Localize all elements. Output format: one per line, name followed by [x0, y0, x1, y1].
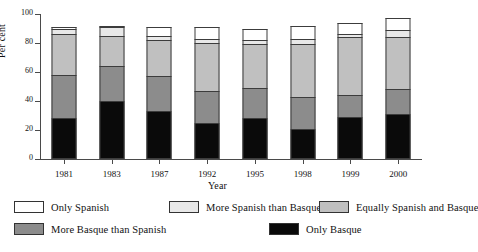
- y-axis-tick-label: 40: [25, 95, 33, 105]
- bar-segment[interactable]: [242, 88, 267, 118]
- y-axis-tick-label: 80: [25, 37, 33, 47]
- bar-segment[interactable]: [242, 44, 267, 88]
- bar-segment[interactable]: [51, 118, 76, 159]
- bar-segment[interactable]: [99, 36, 124, 66]
- stacked-bar[interactable]: [147, 27, 172, 159]
- bar-segment[interactable]: [386, 114, 411, 159]
- chart-legend: Only SpanishMore Spanish than BasqueEqua…: [14, 196, 428, 240]
- y-axis-tick-label: 60: [25, 66, 33, 76]
- stacked-bar[interactable]: [51, 27, 76, 159]
- bar-segment[interactable]: [195, 43, 220, 91]
- x-axis-tick-label: 2000: [389, 169, 407, 179]
- bar-segment[interactable]: [386, 37, 411, 89]
- legend-label: Equally Spanish and Basque: [356, 202, 478, 213]
- x-axis-tick-mark: [112, 160, 113, 164]
- bar-segment[interactable]: [242, 118, 267, 159]
- y-axis-tick: 0: [40, 159, 41, 160]
- x-axis-tick-label: 1983: [103, 169, 121, 179]
- bar-segment[interactable]: [147, 27, 172, 36]
- legend-item[interactable]: Only Basque: [269, 218, 362, 240]
- x-axis-tick-mark: [159, 160, 160, 164]
- bar-segment[interactable]: [147, 76, 172, 111]
- x-axis-title: Year: [0, 180, 435, 191]
- x-axis-tick-mark: [64, 160, 65, 164]
- legend-label: More Basque than Spanish: [51, 224, 166, 235]
- bar-segment[interactable]: [195, 123, 220, 159]
- stacked-bar[interactable]: [195, 27, 220, 159]
- bar-segment[interactable]: [290, 97, 315, 129]
- bar-slot: 1981: [40, 14, 88, 159]
- bar-segment[interactable]: [195, 91, 220, 123]
- bar-slot: 2000: [374, 14, 422, 159]
- x-axis-tick-mark: [255, 160, 256, 164]
- legend-swatch: [14, 201, 44, 213]
- bar-segment[interactable]: [51, 34, 76, 75]
- bar-slot: 1983: [88, 14, 136, 159]
- stacked-bar[interactable]: [290, 26, 315, 159]
- bar-segment[interactable]: [51, 75, 76, 119]
- bar-segment[interactable]: [99, 27, 124, 36]
- bar-slot: 1999: [327, 14, 375, 159]
- x-axis-tick-label: 1995: [246, 169, 264, 179]
- x-axis-line: [40, 159, 422, 160]
- stacked-bar[interactable]: [242, 29, 267, 159]
- bar-segment[interactable]: [338, 95, 363, 117]
- legend-item[interactable]: Equally Spanish and Basque: [319, 196, 478, 218]
- x-axis-tick-mark: [207, 160, 208, 164]
- stacked-bar[interactable]: [386, 18, 411, 159]
- legend-row: Only SpanishMore Spanish than BasqueEqua…: [14, 196, 428, 218]
- x-axis-tick-label: 1981: [55, 169, 73, 179]
- bar-slot: 1992: [183, 14, 231, 159]
- stacked-bar[interactable]: [99, 26, 124, 159]
- x-axis-tick-label: 1998: [294, 169, 312, 179]
- y-axis-title: Per cent: [0, 24, 7, 58]
- legend-label: More Spanish than Basque: [206, 202, 321, 213]
- legend-swatch: [169, 201, 199, 213]
- bar-segment[interactable]: [195, 27, 220, 39]
- x-axis-tick-mark: [398, 160, 399, 164]
- legend-label: Only Spanish: [51, 202, 109, 213]
- y-axis-tick-label: 0: [29, 153, 33, 163]
- bar-segment[interactable]: [338, 23, 363, 35]
- bar-segment[interactable]: [242, 29, 267, 41]
- y-axis-tick-label: 100: [21, 8, 33, 18]
- legend-item[interactable]: More Basque than Spanish: [14, 218, 166, 240]
- legend-row: More Basque than SpanishOnly Basque: [14, 218, 428, 240]
- bar-segment[interactable]: [386, 18, 411, 30]
- bar-segment[interactable]: [338, 117, 363, 159]
- x-axis-tick-label: 1987: [150, 169, 168, 179]
- bar-slot: 1998: [279, 14, 327, 159]
- legend-swatch: [14, 223, 44, 235]
- legend-swatch: [319, 201, 349, 213]
- x-axis-tick-label: 1992: [198, 169, 216, 179]
- bar-segment[interactable]: [386, 89, 411, 114]
- bar-segment[interactable]: [338, 37, 363, 95]
- x-axis-tick-label: 1999: [341, 169, 359, 179]
- bar-segment[interactable]: [147, 40, 172, 76]
- bar-segment[interactable]: [290, 26, 315, 39]
- bar-segment[interactable]: [99, 101, 124, 159]
- bar-segment[interactable]: [99, 66, 124, 101]
- bar-segment[interactable]: [290, 129, 315, 159]
- legend-item[interactable]: Only Spanish: [14, 196, 109, 218]
- x-axis-tick-mark: [350, 160, 351, 164]
- y-axis-tick-label: 20: [25, 124, 33, 134]
- x-axis-tick-mark: [303, 160, 304, 164]
- y-axis-tick-mark: [35, 159, 40, 160]
- bar-slot: 1987: [136, 14, 184, 159]
- legend-swatch: [269, 223, 299, 235]
- bar-segment[interactable]: [147, 111, 172, 159]
- bar-segment[interactable]: [290, 44, 315, 96]
- bar-segment[interactable]: [386, 30, 411, 37]
- stacked-bar[interactable]: [338, 23, 363, 159]
- bar-group: 19811983198719921995199819992000: [40, 14, 422, 159]
- legend-label: Only Basque: [306, 224, 362, 235]
- bar-slot: 1995: [231, 14, 279, 159]
- legend-item[interactable]: More Spanish than Basque: [169, 196, 321, 218]
